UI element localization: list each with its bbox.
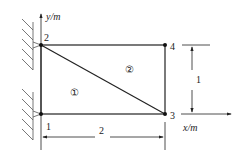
- node-label-2: 2: [44, 32, 49, 43]
- width-dimension: [43, 122, 165, 150]
- x-axis-label: x/m: [182, 122, 197, 133]
- y-axis-label: y/m: [45, 11, 60, 22]
- height-dimension-label: 1: [196, 74, 201, 85]
- node-label-1: 1: [46, 121, 51, 132]
- fem-diagram: y/m 1 2 3 4 ① ② x/m 1 2: [0, 0, 244, 159]
- element-label-2: ②: [125, 64, 134, 75]
- node-label-4: 4: [170, 41, 175, 52]
- mesh: [41, 45, 165, 114]
- wall-support-top: [22, 19, 41, 70]
- wall-support-bottom: [22, 89, 41, 140]
- node-label-3: 3: [170, 110, 175, 121]
- element-label-1: ①: [70, 87, 79, 98]
- width-dimension-label: 2: [99, 125, 104, 136]
